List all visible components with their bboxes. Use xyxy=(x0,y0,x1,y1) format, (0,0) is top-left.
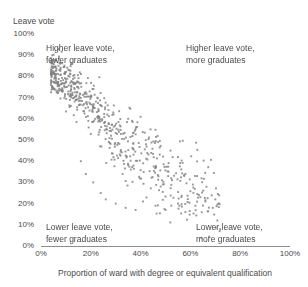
x-axis-title: Proportion of ward with degree or equiva… xyxy=(0,268,308,278)
annotation-top-right: Higher leave vote, more graduates xyxy=(186,43,255,66)
y-axis-title: Leave vote xyxy=(13,16,55,26)
y-tick-label: 100% xyxy=(4,30,34,38)
y-tick-label: 10% xyxy=(4,221,34,229)
x-tick-label: 0% xyxy=(24,250,58,258)
x-tick-label: 40% xyxy=(124,250,158,258)
x-tick-label: 80% xyxy=(223,250,257,258)
x-tick-label: 100% xyxy=(273,250,307,258)
y-tick-label: 30% xyxy=(4,178,34,186)
annotation-top-left: Higher leave vote, fewer graduates xyxy=(46,43,115,66)
annotation-bottom-right-line1: Lower leave vote, xyxy=(196,222,263,234)
y-tick-label: 60% xyxy=(4,115,34,123)
x-axis-line xyxy=(41,246,290,247)
annotation-bottom-right-line2: more graduates xyxy=(196,234,263,246)
y-tick-label: 80% xyxy=(4,72,34,80)
scatter-chart-figure: Leave vote 0%10%20%30%40%50%60%70%80%90%… xyxy=(0,0,308,287)
y-tick-label: 20% xyxy=(4,200,34,208)
annotation-bottom-left-line2: fewer graduates xyxy=(46,234,113,246)
annotation-top-right-line2: more graduates xyxy=(186,55,255,67)
annotation-bottom-left: Lower leave vote, fewer graduates xyxy=(46,222,113,245)
annotation-top-left-line2: fewer graduates xyxy=(46,55,115,67)
y-tick-label: 50% xyxy=(4,136,34,144)
y-tick-label: 40% xyxy=(4,157,34,165)
annotation-bottom-left-line1: Lower leave vote, xyxy=(46,222,113,234)
annotation-top-left-line1: Higher leave vote, xyxy=(46,43,115,55)
y-tick-label: 0% xyxy=(4,242,34,250)
annotation-top-right-line1: Higher leave vote, xyxy=(186,43,255,55)
x-tick-label: 20% xyxy=(74,250,108,258)
y-tick-label: 90% xyxy=(4,51,34,59)
y-tick-label: 70% xyxy=(4,94,34,102)
annotation-bottom-right: Lower leave vote, more graduates xyxy=(196,222,263,245)
x-tick-label: 60% xyxy=(173,250,207,258)
